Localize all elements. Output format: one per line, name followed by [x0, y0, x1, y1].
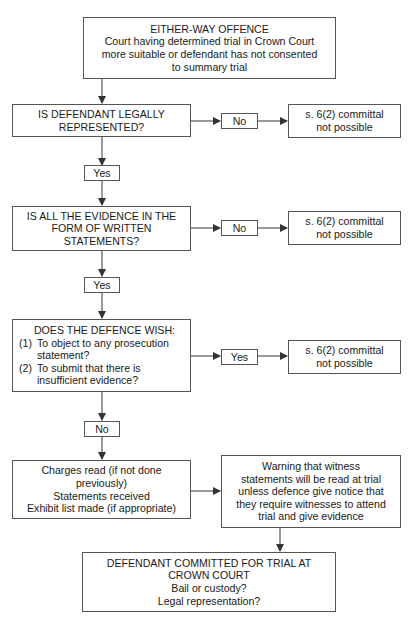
q3-option-number: (1) [19, 337, 37, 362]
warning-line: trial and give evidence [258, 510, 363, 523]
q3-title: DOES THE DEFENCE WISH: [34, 324, 175, 337]
decision-defence-wish: DOES THE DEFENCE WISH: (1) To object to … [12, 319, 191, 392]
q2-line: IS ALL THE EVIDENCE IN THE [27, 210, 176, 223]
q3-option-number: (2) [19, 362, 37, 387]
decision-legally-represented: IS DEFENDANT LEGALLY REPRESENTED? [12, 104, 191, 137]
q1-result-committal-not-possible: s. 6(2) committal not possible [288, 104, 401, 138]
q2-line: FORM OF WRITTEN [51, 222, 151, 235]
result-line: not possible [316, 121, 373, 134]
q1-yes-text: Yes [93, 167, 110, 180]
start-box-either-way-offence: EITHER-WAY OFFENCE Court having determin… [83, 17, 336, 79]
start-line: Court having determined trial in Crown C… [105, 35, 315, 48]
q3-yes-text: Yes [231, 351, 248, 364]
q1-yes-label: Yes [84, 165, 120, 181]
q3-option-1: (1) To object to any prosecution stateme… [19, 337, 169, 362]
warning-line: statements will be read at trial [241, 473, 381, 486]
q3-result-committal-not-possible: s. 6(2) committal not possible [288, 340, 401, 374]
result-line: not possible [316, 357, 373, 370]
start-line: to summary trial [172, 61, 247, 74]
q3-option-line: insufficient evidence? [37, 374, 141, 387]
q1-line: IS DEFENDANT LEGALLY [38, 108, 165, 121]
steps-line: previously) [76, 477, 127, 490]
start-title: EITHER-WAY OFFENCE [150, 23, 269, 36]
q2-yes-text: Yes [93, 279, 110, 292]
start-line: more suitable or defendant has not conse… [102, 48, 318, 61]
q1-no-text: No [233, 115, 247, 128]
procedure-steps-box: Charges read (if not done previously) St… [12, 460, 191, 519]
q2-result-committal-not-possible: s. 6(2) committal not possible [288, 211, 401, 245]
result-line: s. 6(2) committal [305, 215, 383, 228]
result-line: s. 6(2) committal [305, 344, 383, 357]
q3-option-line: To object to any prosecution [37, 337, 169, 350]
warning-box: Warning that witness statements will be … [221, 455, 401, 528]
q3-option-line: To submit that there is [37, 362, 141, 375]
end-line: Bail or custody? [171, 582, 246, 595]
steps-line: Charges read (if not done [41, 464, 161, 477]
q3-no-text: No [95, 423, 109, 436]
decision-written-statements: IS ALL THE EVIDENCE IN THE FORM OF WRITT… [12, 206, 191, 251]
q3-yes-label: Yes [221, 349, 258, 365]
connector-lines [0, 0, 416, 622]
q2-line: STATEMENTS? [64, 235, 140, 248]
q3-option-line: statement? [37, 349, 169, 362]
q3-option-2: (2) To submit that there is insufficient… [19, 362, 141, 387]
q2-yes-label: Yes [84, 277, 120, 293]
q3-no-label: No [84, 421, 120, 437]
q1-line: REPRESENTED? [59, 121, 144, 134]
result-line: s. 6(2) committal [305, 108, 383, 121]
result-line: not possible [316, 228, 373, 241]
end-line: DEFENDANT COMMITTED FOR TRIAL AT [107, 557, 311, 570]
end-line: Legal representation? [158, 595, 260, 608]
warning-line: they require witnesses to attend [236, 498, 386, 511]
steps-line: Statements received [53, 490, 150, 503]
end-box-committed-for-trial: DEFENDANT COMMITTED FOR TRIAL AT CROWN C… [82, 552, 336, 612]
q2-no-text: No [233, 222, 247, 235]
q1-no-label: No [221, 113, 258, 129]
q2-no-label: No [221, 220, 258, 236]
warning-line: unless defence give notice that [238, 485, 383, 498]
steps-line: Exhibit list made (if appropriate) [27, 502, 176, 515]
warning-line: Warning that witness [262, 460, 360, 473]
end-line: CROWN COURT [168, 569, 250, 582]
